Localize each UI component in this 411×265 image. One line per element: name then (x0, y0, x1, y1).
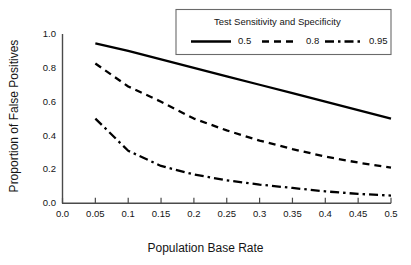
y-axis-label: Proportion of False Positives (7, 40, 21, 193)
y-tick-label-0: 0.0 (30, 197, 56, 208)
y-tick-label-1: 0.2 (30, 163, 56, 174)
legend-title: Test Sensitivity and Specificity (214, 16, 341, 27)
y-axis-label-wrap: Proportion of False Positives (2, 0, 26, 232)
series-line-0.95 (95, 119, 391, 196)
x-axis-label-wrap: Population Base Rate (0, 238, 411, 256)
y-tick-label-2: 0.4 (30, 130, 56, 141)
legend-label-0.95: 0.95 (369, 35, 388, 46)
chart-figure: Proportion of False Positives Population… (0, 0, 411, 265)
y-tick-label-5: 1.0 (30, 28, 56, 39)
y-tick-label-3: 0.6 (30, 96, 56, 107)
series-line-0.8 (95, 63, 391, 167)
chart-series-group (95, 43, 391, 195)
x-axis-ticks (63, 198, 392, 204)
chart-canvas (0, 0, 411, 265)
x-axis-label: Population Base Rate (147, 241, 263, 255)
y-tick-label-4: 0.8 (30, 62, 56, 73)
legend-label-0.5: 0.5 (238, 35, 251, 46)
legend-label-0.8: 0.8 (306, 35, 319, 46)
x-tick-label-10: 0.5 (371, 208, 411, 219)
